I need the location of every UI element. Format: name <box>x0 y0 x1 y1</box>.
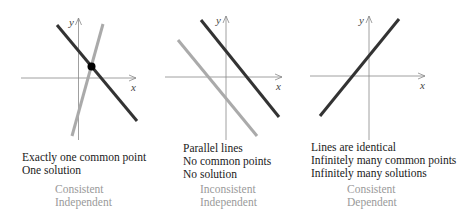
intersection-point <box>88 63 96 71</box>
caption-line: Infinitely many common points <box>311 154 456 167</box>
classification-no-solution: Inconsistent Independent <box>200 183 257 209</box>
graph-no-solution: x y <box>165 14 282 140</box>
classification-line: Independent <box>55 196 112 209</box>
y-axis-label: y <box>68 16 74 28</box>
y-axis-label: y <box>215 14 221 26</box>
primary-line <box>57 25 137 121</box>
x-axis-label: x <box>275 80 281 92</box>
caption-line: No solution <box>183 168 271 181</box>
classification-line: Consistent <box>347 183 397 196</box>
caption-line: Exactly one common point <box>22 151 146 164</box>
caption-line: Parallel lines <box>183 142 271 155</box>
primary-line <box>201 20 279 117</box>
primary-line <box>320 19 399 116</box>
graph-one-solution: x y <box>21 16 137 140</box>
caption-line: Lines are identical <box>311 141 456 154</box>
caption-line: No common points <box>183 155 271 168</box>
caption-no-solution: Parallel lines No common points No solut… <box>183 142 271 181</box>
secondary-line <box>178 40 257 136</box>
classification-infinite-solutions: Consistent Dependent <box>347 183 397 209</box>
caption-line: Infinitely many solutions <box>311 167 456 180</box>
classification-line: Dependent <box>347 196 397 209</box>
classification-line: Inconsistent <box>200 183 257 196</box>
caption-one-solution: Exactly one common point One solution <box>22 151 146 177</box>
x-axis-label: x <box>130 81 136 93</box>
classification-line: Independent <box>200 196 257 209</box>
secondary-line <box>72 24 103 136</box>
classification-line: Consistent <box>55 183 112 196</box>
classification-one-solution: Consistent Independent <box>55 183 112 209</box>
x-axis-label: x <box>419 79 425 91</box>
y-axis-label: y <box>358 14 364 26</box>
caption-line: One solution <box>22 164 146 177</box>
graph-infinite-solutions: x y <box>310 14 425 140</box>
caption-infinite-solutions: Lines are identical Infinitely many comm… <box>311 141 456 180</box>
